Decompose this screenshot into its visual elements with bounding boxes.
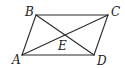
vertex-label-c: C (111, 5, 120, 19)
vertex-label-a: A (11, 53, 21, 67)
vertex-label-b: B (24, 5, 34, 19)
parallelogram-diagram: A B C D E (0, 0, 125, 68)
intersection-label-e: E (57, 39, 67, 53)
vertex-label-d: D (96, 54, 107, 68)
